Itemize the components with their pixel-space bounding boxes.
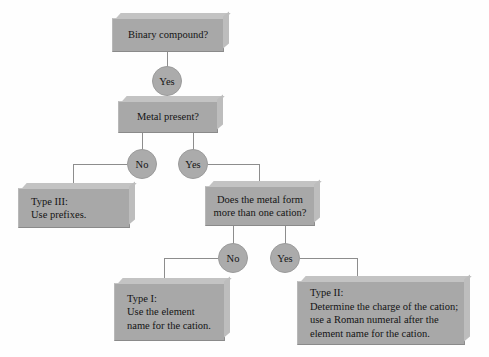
answer-node-metal-yes-label: Yes [185,159,200,170]
decision-box-multiple-cation[interactable]: Does the metal form more than one cation… [205,186,315,226]
decision-box-binary-compound-label: Binary compound? [113,28,223,42]
connector-no-to-type3-horizontal [73,164,127,165]
connector-binary-to-yes-upper [167,52,168,67]
connector-metal-to-yes [193,133,194,150]
connector-yes-to-cation-horizontal [208,164,260,165]
connector-cation-yes-to-type2-horizontal [300,258,358,259]
decision-box-multiple-cation-line-2: more than one cation? [206,206,314,220]
connector-cation-to-yes [285,226,286,244]
result-box-type-i-line-3: name for the cation. [115,319,224,333]
answer-node-cation-yes[interactable]: Yes [270,243,300,273]
answer-node-metal-yes[interactable]: Yes [178,149,208,179]
result-box-type-ii-line-3: use a Roman numeral after the [298,313,464,327]
result-box-type-iii-line-2: Use prefixes. [19,208,129,222]
result-box-type-i[interactable]: Type I: Use the element name for the cat… [114,283,225,341]
decision-box-binary-compound[interactable]: Binary compound? [112,18,224,52]
answer-node-cation-no-label: No [227,253,240,264]
answer-node-cation-no[interactable]: No [218,243,248,273]
result-box-type-iii-line-1: Type III: [19,195,129,209]
answer-node-metal-no-label: No [136,159,149,170]
connector-cation-to-no [233,226,234,244]
result-box-type-ii-line-2: Determine the charge of the cation; [298,300,464,314]
answer-node-cation-yes-label: Yes [277,253,292,264]
answer-node-metal-no[interactable]: No [127,149,157,179]
answer-node-binary-yes-label: Yes [159,76,174,87]
answer-node-binary-yes[interactable]: Yes [152,66,182,96]
result-box-type-ii-line-1: Type II: [298,286,464,300]
decision-box-metal-present-label: Metal present? [119,110,217,124]
connector-metal-to-no [142,133,143,150]
result-box-type-i-line-1: Type I: [115,292,224,306]
result-box-type-ii-line-4: element name for the cation. [298,327,464,341]
flowchart-canvas: Binary compound? Yes Metal present? No Y… [0,0,489,357]
decision-box-metal-present[interactable]: Metal present? [118,101,218,133]
result-box-type-i-line-2: Use the element [115,305,224,319]
result-box-type-ii[interactable]: Type II: Determine the charge of the cat… [297,281,465,345]
connector-cation-no-to-type1-horizontal [164,258,218,259]
decision-box-multiple-cation-line-1: Does the metal form [206,193,314,207]
result-box-type-iii[interactable]: Type III: Use prefixes. [18,188,130,228]
